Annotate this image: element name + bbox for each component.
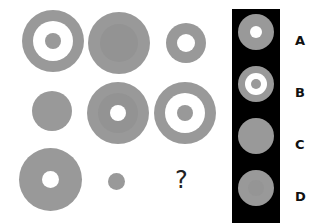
option-a-white-center <box>250 26 262 38</box>
circle-solid <box>32 91 72 131</box>
circle-center-dot <box>177 105 193 121</box>
option-b-label[interactable]: B <box>295 85 305 100</box>
circle-white-center <box>42 171 59 188</box>
circle-white-center <box>110 105 126 121</box>
circle-small-dot <box>108 173 125 190</box>
option-c-circle[interactable] <box>238 118 274 154</box>
option-a-label[interactable]: A <box>295 33 305 48</box>
option-c-label[interactable]: C <box>295 137 305 152</box>
option-d-inner-disc <box>248 180 264 196</box>
option-d-label[interactable]: D <box>295 189 306 204</box>
circle-center-dot <box>45 33 61 49</box>
option-b-center-dot <box>251 79 261 89</box>
circle-inner-disc <box>100 24 138 62</box>
options-panel <box>232 9 280 223</box>
circle-white-center <box>177 34 195 52</box>
question-mark: ? <box>175 166 188 194</box>
